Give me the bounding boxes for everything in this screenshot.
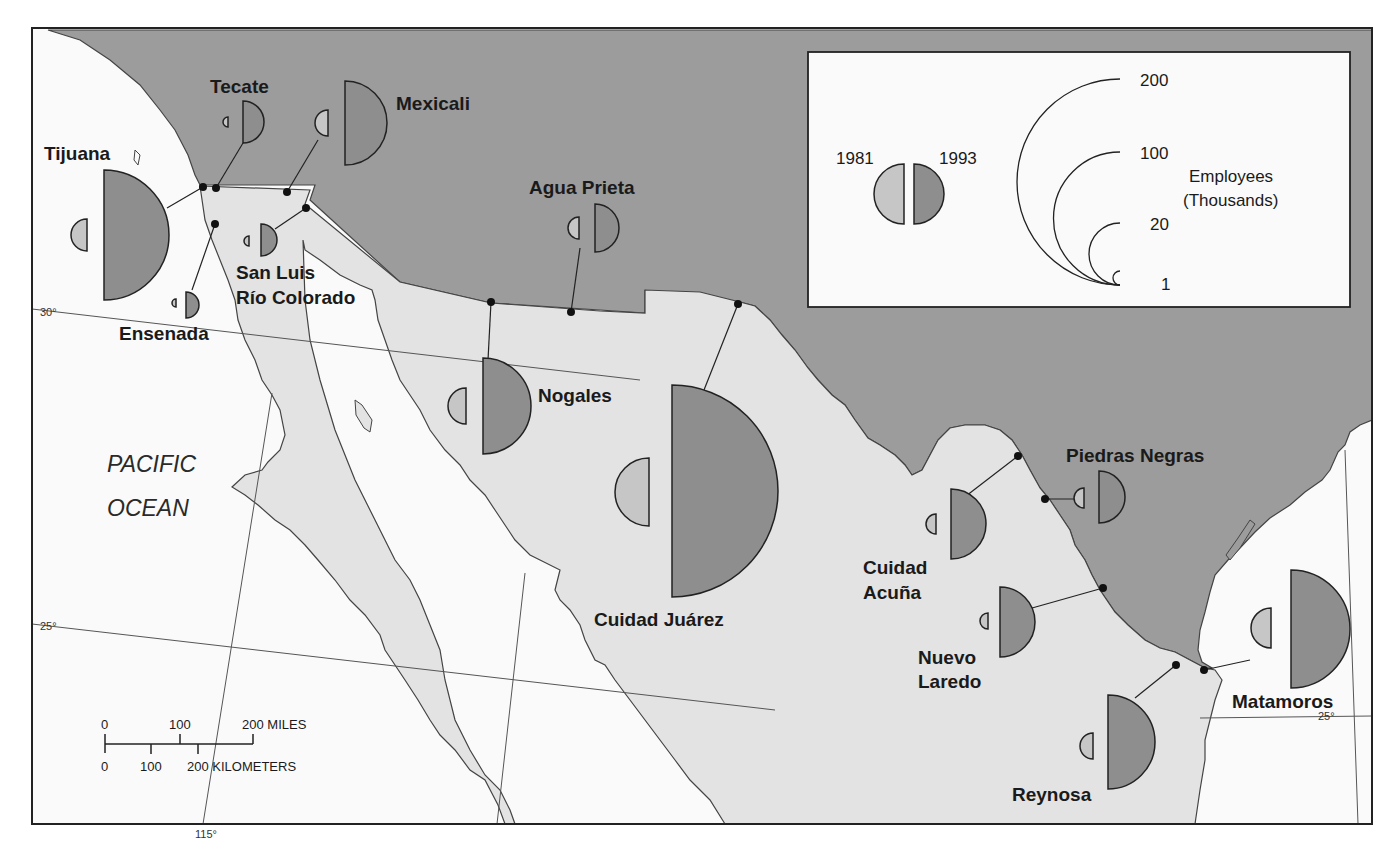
legend-value-20: 20 [1150, 215, 1169, 234]
legend-value-200: 200 [1140, 71, 1168, 90]
dot-juarez [734, 300, 742, 308]
scale-km-200: 200 KILOMETERS [187, 759, 296, 774]
lat-30-label: 30° [40, 306, 57, 318]
label-tijuana: Tijuana [44, 143, 111, 164]
pacific-ocean-label-line2: OCEAN [107, 495, 189, 521]
label-ensenada: Ensenada [119, 323, 209, 344]
dot-mexicali [283, 188, 291, 196]
legend-value-100: 100 [1140, 144, 1168, 163]
label-agua-prieta: Agua Prieta [529, 177, 635, 198]
dot-piedras-negras [1041, 495, 1049, 503]
label-reynosa: Reynosa [1012, 784, 1092, 805]
legend-year-1981: 1981 [836, 149, 874, 168]
label-acuna-1: Cuidad [863, 557, 927, 578]
pacific-ocean-label-line1: PACIFIC [107, 451, 196, 477]
dot-acuna [1014, 452, 1022, 460]
legend-title-line2: (Thousands) [1183, 191, 1278, 210]
label-san-luis-1: San Luis [236, 262, 315, 283]
label-juarez: Cuidad Juárez [594, 609, 724, 630]
scale-miles-0: 0 [101, 717, 108, 732]
label-nogales: Nogales [538, 385, 612, 406]
label-mexicali: Mexicali [396, 93, 470, 114]
label-tecate: Tecate [210, 76, 269, 97]
dot-ensenada [211, 220, 219, 228]
border-employment-map: 30° 25° 25° 115° PACIFIC OCEAN [0, 0, 1400, 867]
legend-year-1993: 1993 [939, 149, 977, 168]
lat-25-label-west: 25° [40, 620, 57, 632]
label-nuevo-laredo-2: Laredo [918, 671, 981, 692]
dot-reynosa [1172, 661, 1180, 669]
label-san-luis-2: Río Colorado [236, 287, 355, 308]
scale-miles-100: 100 [169, 717, 191, 732]
dot-matamoros [1200, 666, 1208, 674]
dot-tijuana [199, 183, 207, 191]
lon-115-label: 115° [195, 828, 217, 840]
label-matamoros: Matamoros [1232, 691, 1333, 712]
scale-km-100: 100 [140, 759, 162, 774]
dot-agua-prieta [567, 308, 575, 316]
scale-miles-200: 200 MILES [242, 717, 307, 732]
dot-tecate [212, 184, 220, 192]
label-acuna-2: Acuña [863, 582, 922, 603]
scale-km-0: 0 [101, 759, 108, 774]
legend-title-line1: Employees [1189, 167, 1273, 186]
dot-nuevo-laredo [1099, 584, 1107, 592]
legend: 1981 1993 200 100 20 1 Employees (Thousa… [808, 52, 1350, 307]
dot-nogales [487, 298, 495, 306]
legend-value-1: 1 [1161, 275, 1170, 294]
label-nuevo-laredo-1: Nuevo [918, 647, 976, 668]
dot-san-luis [302, 204, 310, 212]
label-piedras-negras: Piedras Negras [1066, 445, 1204, 466]
